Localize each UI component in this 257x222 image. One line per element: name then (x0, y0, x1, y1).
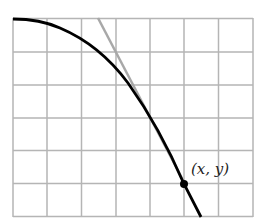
grid (13, 18, 253, 217)
point-marker (180, 180, 188, 188)
graph (0, 0, 257, 222)
point-label: (x, y) (191, 160, 229, 178)
